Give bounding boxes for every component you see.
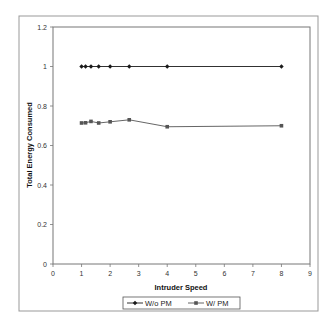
x-tick-label: 7 xyxy=(251,270,255,277)
x-tick-label: 3 xyxy=(137,270,141,277)
x-tick-label: 6 xyxy=(222,270,226,277)
y-tick-label: 0.2 xyxy=(37,221,47,228)
x-tick-label: 1 xyxy=(80,270,84,277)
legend-marker xyxy=(194,301,198,305)
data-point xyxy=(280,124,284,128)
legend: W/o PMW/ PM xyxy=(123,297,240,309)
x-tick-label: 5 xyxy=(194,270,198,277)
chart: 00.20.40.60.811.2 0123456789 Total Energ… xyxy=(0,0,335,327)
x-tick-label: 0 xyxy=(51,270,55,277)
x-tick-label: 2 xyxy=(108,270,112,277)
x-tick-label: 9 xyxy=(308,270,312,277)
legend-label: W/ PM xyxy=(206,299,229,308)
x-tick-label: 8 xyxy=(279,270,283,277)
y-axis-title: Total Energy Consumed xyxy=(25,102,34,188)
y-tick-label: 1.2 xyxy=(37,24,47,31)
plot-area xyxy=(53,27,310,264)
data-point xyxy=(80,121,84,125)
legend-label: W/o PM xyxy=(145,299,172,308)
data-point xyxy=(165,125,169,129)
data-point xyxy=(89,120,93,124)
y-tick-label: 0 xyxy=(43,261,47,268)
data-point xyxy=(84,121,88,125)
x-axis-title: Intruder Speed xyxy=(155,283,208,292)
y-tick-label: 0.6 xyxy=(37,142,47,149)
data-point xyxy=(127,118,131,122)
y-tick-label: 1 xyxy=(43,63,47,70)
data-point xyxy=(97,121,101,125)
y-tick-label: 0.4 xyxy=(37,182,47,189)
x-tick-label: 4 xyxy=(165,270,169,277)
y-tick-label: 0.8 xyxy=(37,103,47,110)
data-point xyxy=(108,120,112,124)
